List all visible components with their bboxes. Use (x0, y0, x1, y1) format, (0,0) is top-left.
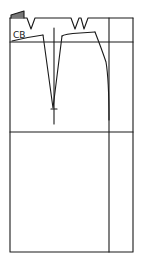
top-edge-with-notches (10, 18, 133, 29)
corner-flag (11, 11, 24, 18)
waist-curve-right (62, 32, 95, 36)
side-seam-curve (95, 32, 109, 120)
center-back-label: CB (13, 30, 25, 40)
skirt-pattern-diagram: CB (0, 0, 141, 257)
outer-frame (10, 18, 133, 252)
back-dart (43, 35, 62, 108)
